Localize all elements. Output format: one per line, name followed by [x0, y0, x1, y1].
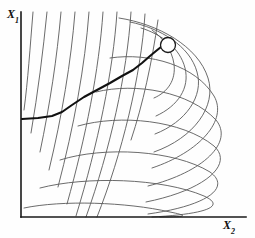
y-axis-label: X1: [7, 7, 19, 23]
y-axis-label-subscript: 1: [15, 16, 19, 25]
optimum-circle: [161, 38, 176, 53]
x-axis-label-subscript: 2: [231, 227, 235, 236]
y-axis-label-main: X: [7, 7, 15, 21]
x-axis-label: X2: [223, 218, 235, 234]
x-axis-label-main: X: [223, 218, 231, 232]
contour-plot-figure: X1 X2: [0, 0, 255, 238]
contour-plot-canvas: [0, 0, 255, 238]
